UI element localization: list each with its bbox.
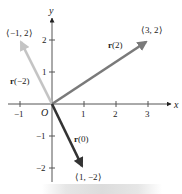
y-tick-label: −2 <box>36 163 46 173</box>
vector-diagram: x y O −1 1 2 3 2 1 −1 −2 ⟨3, 2⟩ r(2) ⟨−1… <box>0 0 182 194</box>
vector-r-0-label: r(0) <box>74 134 89 144</box>
x-tick-label: 3 <box>145 109 150 119</box>
x-tick-label: 2 <box>113 109 118 119</box>
origin-label: O <box>41 107 48 118</box>
vector-r-0-tip-label: ⟨1, −2⟩ <box>75 172 102 182</box>
x-tick-label: 1 <box>81 109 86 119</box>
vector-r-2-tip-label: ⟨3, 2⟩ <box>141 25 163 35</box>
vector-r-2 <box>52 42 146 104</box>
x-tick-label: −1 <box>14 109 24 119</box>
y-tick-label: 1 <box>42 67 47 77</box>
y-tick-label: −1 <box>36 131 46 141</box>
x-axis-label: x <box>173 99 179 110</box>
y-tick-label: 2 <box>42 35 47 45</box>
y-axis-label: y <box>48 5 54 16</box>
figure-caption-bar <box>42 184 162 194</box>
vector-r-minus-2 <box>21 42 52 104</box>
vector-r-2-label: r(2) <box>108 40 123 50</box>
vector-r-minus-2-label: r(−2) <box>10 76 30 86</box>
vector-r-minus-2-tip-label: ⟨−1, 2⟩ <box>6 28 33 38</box>
